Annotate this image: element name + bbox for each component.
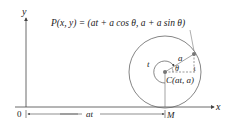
theta-label: θ	[175, 64, 179, 73]
axes	[15, 18, 214, 107]
radius-label: a	[178, 53, 183, 63]
distance-label: at	[86, 109, 94, 119]
origin-label: 0	[17, 109, 22, 119]
y-axis-label: y	[21, 6, 27, 17]
cycloid-diagram: y x 0 at M P(x, y) = (at + a cos θ, a + …	[0, 0, 231, 127]
theta-arc	[172, 68, 173, 72]
x-axis-label: x	[215, 101, 221, 112]
point-c	[163, 70, 167, 74]
formula-label: P(x, y) = (at + a cos θ, a + a sin θ)	[50, 18, 185, 29]
offset-label: 1	[193, 66, 196, 72]
t-label: t	[147, 59, 150, 69]
contact-point-label: M	[166, 110, 175, 120]
center-label: C(at, a)	[166, 75, 194, 85]
point-p	[192, 52, 196, 56]
